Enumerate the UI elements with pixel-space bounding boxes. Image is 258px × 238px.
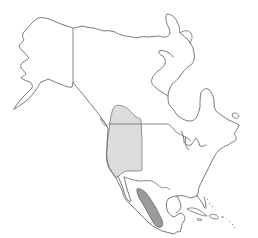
arctic-islands (180, 31, 192, 43)
great-lakes (181, 131, 206, 146)
western-mexico-range (137, 189, 163, 228)
yucatan-peninsula (176, 196, 181, 213)
north-america-range-map (0, 0, 258, 238)
lesser-antilles (229, 221, 235, 228)
newfoundland (232, 113, 239, 118)
bahamas (207, 199, 213, 207)
us-mexico-border (124, 177, 170, 190)
cuba (187, 208, 207, 216)
western-north-america-range (106, 105, 142, 178)
florida (197, 196, 206, 208)
hispaniola (209, 214, 218, 219)
jamaica (197, 219, 202, 221)
